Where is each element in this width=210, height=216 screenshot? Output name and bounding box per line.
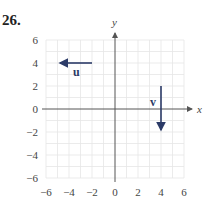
- x-axis-label: x: [196, 103, 202, 115]
- y-tick: −4: [26, 149, 38, 161]
- y-tick: 2: [33, 80, 39, 92]
- x-tick: −4: [63, 186, 75, 198]
- y-tick-labels: 6 4 2 0 −2 −4 −6: [26, 34, 38, 184]
- x-tick: −6: [40, 186, 52, 198]
- y-tick: −6: [26, 172, 38, 184]
- x-tick: 6: [181, 186, 187, 198]
- y-axis-label: y: [111, 16, 117, 28]
- x-tick: −2: [86, 186, 98, 198]
- vector-v-label: v: [150, 95, 156, 109]
- x-tick: 4: [158, 186, 164, 198]
- y-tick: −2: [26, 126, 38, 138]
- y-tick: 6: [33, 34, 39, 46]
- coordinate-plane: x y 6 4 2 0 −2 −4 −6 −6 −4 −2 0 2 4 6 u …: [0, 0, 210, 216]
- x-tick: 0: [112, 186, 118, 198]
- vector-u-label: u: [73, 65, 80, 79]
- x-tick: 2: [135, 186, 141, 198]
- y-tick: 0: [33, 103, 39, 115]
- x-tick-labels: −6 −4 −2 0 2 4 6: [40, 186, 187, 198]
- y-tick: 4: [33, 57, 39, 69]
